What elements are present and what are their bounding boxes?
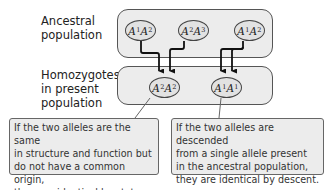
callout-identical-by-state: If the two alleles are the same in struc… (9, 118, 159, 175)
callout-identical-by-descent: If the two alleles are descended from a … (171, 118, 324, 175)
callout-line: in structure and function but (14, 147, 154, 160)
allele-symbol: A (128, 25, 135, 37)
arrow-a1a2-to-a2a2 (141, 41, 159, 71)
allele-symbol: A (194, 25, 201, 37)
allele-symbol: A (181, 25, 188, 37)
callout-line: do not have a common origin, (14, 160, 154, 186)
allele-symbol: A (165, 82, 172, 94)
genotype-oval-present: A1A1 (211, 77, 242, 98)
allele-symbol: A (214, 82, 221, 94)
genotype-oval-ancestral: A1A2 (234, 20, 265, 41)
allele-symbol: A (237, 25, 244, 37)
callout-line: in the ancestral population, (176, 160, 319, 173)
genotype-oval-present: A2A2 (149, 77, 180, 98)
callout-line: If the two alleles are descended (176, 121, 319, 147)
arrow-a1a2-to-a1a1-right (232, 47, 243, 71)
allele-symbol: A (152, 82, 159, 94)
genotype-oval-ancestral: A2A3 (178, 20, 209, 41)
callout-line: they are identical by descent. (176, 173, 319, 186)
callout-line: from a single allele present (176, 147, 319, 160)
callout-line: they are identical by state. (14, 186, 154, 190)
callout-line: If the two alleles are the same (14, 121, 154, 147)
allele-symbol: A (141, 25, 148, 37)
arrow-a2a3-to-a2a2 (170, 41, 184, 71)
allele-symbol: A (227, 82, 234, 94)
callout-pointer-descent (219, 98, 221, 118)
callout-pointer-state (135, 98, 150, 118)
allele-symbol: A (250, 25, 257, 37)
genotype-oval-ancestral: A1A2 (125, 20, 156, 41)
